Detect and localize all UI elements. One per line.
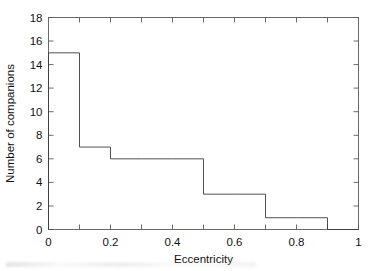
x-tick-label: 0.2 <box>103 236 119 248</box>
y-tick-label: 16 <box>30 35 43 47</box>
histogram-plot: 024681012141618 00.20.40.60.81 Eccentric… <box>0 0 374 271</box>
histogram-figure: 024681012141618 00.20.40.60.81 Eccentric… <box>0 0 374 271</box>
y-tick-label: 18 <box>30 12 43 24</box>
y-tick-label: 2 <box>36 200 42 212</box>
x-tick-label: 0.8 <box>289 236 305 248</box>
y-axis-title: Number of companions <box>4 64 16 183</box>
y-tick-label: 4 <box>36 176 43 188</box>
x-tick-label: 1 <box>355 236 361 248</box>
x-tick-label: 0.6 <box>227 236 243 248</box>
y-tick-label: 8 <box>36 129 42 141</box>
figure-background <box>0 0 374 271</box>
y-tick-label: 6 <box>36 153 42 165</box>
x-axis-title: Eccentricity <box>174 253 233 265</box>
y-tick-label: 14 <box>30 59 43 71</box>
x-tick-label: 0.4 <box>165 236 182 248</box>
y-tick-label: 10 <box>30 106 43 118</box>
y-tick-label: 12 <box>30 82 43 94</box>
x-tick-label: 0 <box>45 236 51 248</box>
y-tick-label: 0 <box>36 224 42 236</box>
